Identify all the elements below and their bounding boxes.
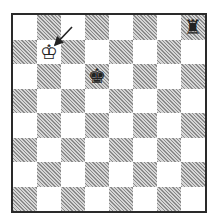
square-e8 — [109, 15, 133, 40]
square-d5 — [85, 89, 109, 114]
square-e4 — [109, 113, 133, 138]
square-e7 — [109, 40, 133, 65]
square-b7: ♔ — [37, 40, 61, 65]
square-g2 — [157, 162, 181, 187]
square-h1 — [181, 187, 205, 212]
square-g5 — [157, 89, 181, 114]
square-d1 — [85, 187, 109, 212]
black-rook-icon: ♜ — [181, 15, 205, 40]
square-f6 — [133, 64, 157, 89]
square-c2 — [61, 162, 85, 187]
square-c3 — [61, 138, 85, 163]
square-f8 — [133, 15, 157, 40]
square-b6 — [37, 64, 61, 89]
square-h8: ♜ — [181, 15, 205, 40]
square-f4 — [133, 113, 157, 138]
square-d8 — [85, 15, 109, 40]
square-a2 — [13, 162, 37, 187]
square-c8 — [61, 15, 85, 40]
white-king-icon: ♔ — [37, 40, 61, 65]
square-h3 — [181, 138, 205, 163]
square-b3 — [37, 138, 61, 163]
square-d4 — [85, 113, 109, 138]
square-h2 — [181, 162, 205, 187]
square-e6 — [109, 64, 133, 89]
board-grid: ♜♔♚ — [13, 15, 205, 211]
square-d7 — [85, 40, 109, 65]
square-b4 — [37, 113, 61, 138]
square-d3 — [85, 138, 109, 163]
square-c4 — [61, 113, 85, 138]
square-c1 — [61, 187, 85, 212]
square-b5 — [37, 89, 61, 114]
chess-board: ♜♔♚ — [11, 13, 207, 213]
square-a6 — [13, 64, 37, 89]
square-c7 — [61, 40, 85, 65]
black-king-icon: ♚ — [85, 64, 109, 89]
square-g4 — [157, 113, 181, 138]
square-g8 — [157, 15, 181, 40]
square-d6: ♚ — [85, 64, 109, 89]
square-a3 — [13, 138, 37, 163]
square-a1 — [13, 187, 37, 212]
square-g6 — [157, 64, 181, 89]
square-e3 — [109, 138, 133, 163]
square-g7 — [157, 40, 181, 65]
square-b1 — [37, 187, 61, 212]
square-h6 — [181, 64, 205, 89]
square-e2 — [109, 162, 133, 187]
square-e1 — [109, 187, 133, 212]
square-f7 — [133, 40, 157, 65]
square-h5 — [181, 89, 205, 114]
square-h7 — [181, 40, 205, 65]
square-b2 — [37, 162, 61, 187]
square-a5 — [13, 89, 37, 114]
square-g3 — [157, 138, 181, 163]
square-a4 — [13, 113, 37, 138]
square-b8 — [37, 15, 61, 40]
square-f3 — [133, 138, 157, 163]
square-f1 — [133, 187, 157, 212]
square-e5 — [109, 89, 133, 114]
square-c6 — [61, 64, 85, 89]
square-h4 — [181, 113, 205, 138]
square-d2 — [85, 162, 109, 187]
square-c5 — [61, 89, 85, 114]
square-a7 — [13, 40, 37, 65]
square-a8 — [13, 15, 37, 40]
square-g1 — [157, 187, 181, 212]
square-f2 — [133, 162, 157, 187]
square-f5 — [133, 89, 157, 114]
